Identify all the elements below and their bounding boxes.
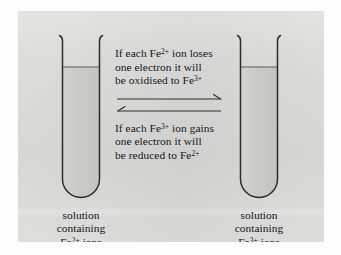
- tube-liquid-right: [236, 67, 282, 201]
- oxidation-line-1: If each Fe2+ ion loses: [115, 47, 237, 61]
- test-tube-left: [58, 33, 104, 201]
- reaction-block: If each Fe2+ ion loses one electron it w…: [115, 47, 237, 163]
- caption-right-line-2: containing: [207, 222, 311, 235]
- test-tube-right: [236, 33, 282, 201]
- oxidation-line-3: be oxidised to Fe3+: [115, 74, 237, 88]
- caption-left-line-2: containing: [29, 222, 133, 235]
- diagram-panel: If each Fe2+ ion loses one electron it w…: [18, 11, 324, 242]
- charge-superscript: 3+: [250, 236, 258, 242]
- tube-caption-right: solution containing Fe3+ ions: [207, 209, 311, 242]
- caption-right-line-3: Fe3+ ions: [207, 236, 311, 242]
- forward-arrow-right-icon: [117, 94, 221, 99]
- charge-superscript: 2+: [191, 149, 199, 158]
- reduction-statement: If each Fe3+ ion gains one electron it w…: [115, 122, 237, 163]
- reversible-reaction-arrows: [116, 93, 224, 117]
- caption-left-line-3: Fe2+ ions: [29, 236, 133, 242]
- caption-left-line-1: solution: [29, 209, 133, 222]
- charge-superscript: 3+: [161, 122, 169, 131]
- reverse-arrow-left-icon: [118, 106, 222, 111]
- reduction-line-2: one electron it will: [115, 135, 237, 149]
- tube-caption-left: solution containing Fe2+ ions: [29, 209, 133, 242]
- figure-root: If each Fe2+ ion loses one electron it w…: [0, 0, 341, 255]
- reduction-line-1: If each Fe3+ ion gains: [115, 122, 237, 136]
- oxidation-line-2: one electron it will: [115, 61, 237, 75]
- reduction-line-3: be reduced to Fe2+: [115, 149, 237, 163]
- tube-liquid-left: [58, 67, 104, 201]
- charge-superscript: 3+: [194, 74, 202, 83]
- charge-superscript: 2+: [161, 47, 169, 56]
- charge-superscript: 2+: [72, 236, 80, 242]
- oxidation-statement: If each Fe2+ ion loses one electron it w…: [115, 47, 237, 88]
- caption-right-line-1: solution: [207, 209, 311, 222]
